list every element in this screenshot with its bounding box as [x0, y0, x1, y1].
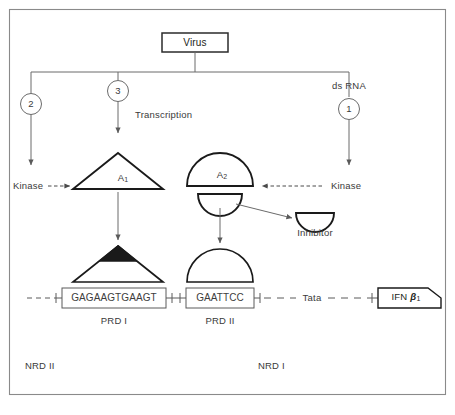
transcription-label: Transcription: [135, 110, 192, 120]
inhibitor-release-arrow: [236, 204, 292, 218]
kinase-left-label: Kinase: [13, 181, 43, 191]
pathway-diagram: [0, 0, 455, 415]
virus-label: Virus: [183, 38, 207, 48]
bound-factor-a1-active-fill: [100, 246, 136, 261]
nrd2-label: NRD II: [25, 361, 55, 371]
factor-a1-triangle: [73, 153, 163, 189]
figure-caption: [6, 404, 454, 415]
ds-rna-label: ds RNA: [332, 81, 366, 91]
ifn-gene-label: IFN β1: [392, 292, 421, 302]
figure-canvas: Virus ds RNA 2 3 1 Transcription Kinase …: [0, 0, 455, 415]
circle-3-label: 3: [115, 86, 120, 96]
kinase-right-label: Kinase: [331, 181, 361, 191]
nrd1-label: NRD I: [258, 361, 285, 371]
inhibitor-label: Inhibitor: [297, 228, 333, 238]
prd1-sequence: GAGAAGTGAAGT: [71, 293, 157, 303]
factor-a1-label: A1: [118, 173, 129, 183]
prd2-label: PRD II: [205, 316, 234, 326]
factor-a2-label: A2: [217, 170, 228, 180]
tata-label: Tata: [303, 293, 322, 303]
prd1-label: PRD I: [101, 316, 127, 326]
circle-1-label: 1: [346, 104, 351, 114]
circle-2-label: 2: [28, 99, 33, 109]
bound-factor-a2-dome: [187, 249, 253, 282]
prd2-sequence: GAATTCC: [196, 293, 244, 303]
